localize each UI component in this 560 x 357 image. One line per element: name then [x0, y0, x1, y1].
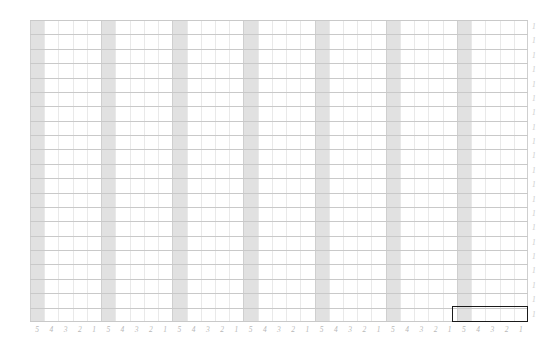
x-axis-tick-label: 2 — [428, 324, 442, 336]
y-axis-tick-label: 1 — [532, 293, 536, 307]
gridline-vertical — [357, 20, 358, 322]
gridline-vertical — [371, 20, 372, 322]
x-axis-tick-label: 2 — [357, 324, 371, 336]
x-axis-tick-label: 2 — [286, 324, 300, 336]
y-axis-tick-label: 1 — [532, 135, 536, 149]
gridline-vertical — [471, 20, 472, 322]
x-axis-tick-label: 1 — [300, 324, 314, 336]
x-axis-tick-label: 5 — [243, 324, 257, 336]
gridline-vertical — [414, 20, 415, 322]
gridline-vertical — [457, 20, 458, 322]
gridline-vertical — [130, 20, 131, 322]
gridline-vertical — [386, 20, 387, 322]
grid-plot-area[interactable] — [30, 20, 528, 322]
y-axis-tick-label: 1 — [532, 121, 536, 135]
gridline-horizontal — [30, 164, 528, 165]
gridline-vertical — [115, 20, 116, 322]
shaded-column — [172, 20, 186, 322]
x-axis-tick-label: 1 — [229, 324, 243, 336]
gridline-vertical — [343, 20, 344, 322]
gridline-vertical — [172, 20, 173, 322]
gridline-horizontal — [30, 106, 528, 107]
y-axis-tick-label: 1 — [532, 236, 536, 250]
gridline-vertical — [144, 20, 145, 322]
x-axis-tick-label: 3 — [343, 324, 357, 336]
y-axis-tick-label: 1 — [532, 264, 536, 278]
gridline-horizontal — [30, 92, 528, 93]
y-axis-tick-label: 1 — [532, 49, 536, 63]
gridline-vertical — [500, 20, 501, 322]
y-axis-tick-label: 1 — [532, 149, 536, 163]
gridline-horizontal — [30, 34, 528, 35]
y-axis-tick-label: 1 — [532, 106, 536, 120]
x-axis-tick-label: 4 — [115, 324, 129, 336]
gridline-horizontal — [30, 121, 528, 122]
y-axis-tick-label: 1 — [532, 78, 536, 92]
gridline-vertical — [44, 20, 45, 322]
gridline-vertical — [300, 20, 301, 322]
y-axis-labels: 111111111111111111111 — [530, 20, 552, 322]
x-axis-tick-label: 4 — [44, 324, 58, 336]
gridline-vertical — [87, 20, 88, 322]
x-axis-tick-label: 5 — [315, 324, 329, 336]
page-root: 54321543215432154321543215432154321 1111… — [0, 0, 560, 357]
y-axis-tick-label: 1 — [532, 279, 536, 293]
gridline-vertical — [243, 20, 244, 322]
gridline-vertical — [73, 20, 74, 322]
gridline-vertical — [329, 20, 330, 322]
gridline-horizontal — [30, 135, 528, 136]
shaded-column — [457, 20, 471, 322]
x-axis-tick-label: 3 — [58, 324, 72, 336]
y-axis-tick-label: 1 — [532, 221, 536, 235]
x-axis-tick-label: 1 — [443, 324, 457, 336]
gridline-vertical — [201, 20, 202, 322]
x-axis-tick-label: 3 — [201, 324, 215, 336]
x-axis-tick-label: 1 — [514, 324, 528, 336]
x-axis-tick-label: 5 — [386, 324, 400, 336]
gridline-vertical — [527, 20, 528, 322]
x-axis-labels: 54321543215432154321543215432154321 — [30, 324, 528, 338]
x-axis-tick-label: 4 — [471, 324, 485, 336]
gridline-vertical — [187, 20, 188, 322]
x-axis-tick-label: 5 — [101, 324, 115, 336]
x-axis-tick-label: 1 — [87, 324, 101, 336]
gridline-vertical — [101, 20, 102, 322]
gridline-horizontal — [30, 149, 528, 150]
x-axis-tick-label: 4 — [329, 324, 343, 336]
x-axis-tick-label: 5 — [30, 324, 44, 336]
gridline-vertical — [258, 20, 259, 322]
gridline-horizontal — [30, 236, 528, 237]
y-axis-tick-label: 1 — [532, 34, 536, 48]
gridline-horizontal — [30, 63, 528, 64]
x-axis-tick-label: 4 — [258, 324, 272, 336]
selection-rectangle[interactable] — [452, 306, 528, 322]
gridline-horizontal — [30, 250, 528, 251]
gridline-vertical — [443, 20, 444, 322]
shaded-column — [386, 20, 400, 322]
gridline-vertical — [158, 20, 159, 322]
x-axis-tick-label: 2 — [215, 324, 229, 336]
x-axis-tick-label: 3 — [414, 324, 428, 336]
gridline-horizontal — [30, 221, 528, 222]
gridline-vertical — [215, 20, 216, 322]
y-axis-tick-label: 1 — [532, 63, 536, 77]
gridline-vertical — [58, 20, 59, 322]
x-axis-tick-label: 5 — [172, 324, 186, 336]
y-axis-tick-label: 1 — [532, 178, 536, 192]
gridline-vertical — [286, 20, 287, 322]
shaded-column — [101, 20, 115, 322]
y-axis-tick-label: 1 — [532, 207, 536, 221]
gridline-horizontal — [30, 178, 528, 179]
x-axis-tick-label: 2 — [73, 324, 87, 336]
gridline-vertical — [272, 20, 273, 322]
x-axis-tick-label: 3 — [272, 324, 286, 336]
gridline-vertical — [229, 20, 230, 322]
gridline-vertical — [428, 20, 429, 322]
x-axis-tick-label: 4 — [400, 324, 414, 336]
x-axis-tick-label: 3 — [130, 324, 144, 336]
y-axis-tick-label: 1 — [532, 20, 536, 34]
y-axis-tick-label: 1 — [532, 250, 536, 264]
x-axis-tick-label: 3 — [485, 324, 499, 336]
gridline-horizontal — [30, 207, 528, 208]
gridline-vertical — [485, 20, 486, 322]
